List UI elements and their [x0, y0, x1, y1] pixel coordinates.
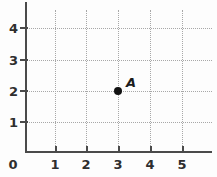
x-axis-tick-1 — [55, 146, 57, 153]
x-axis-tick-5 — [182, 146, 184, 153]
y-axis-tick-2 — [20, 90, 28, 92]
gridline-vertical-x4 — [150, 10, 151, 152]
gridline-horizontal-y4 — [25, 28, 212, 29]
x-axis-tick-4 — [150, 146, 152, 153]
origin-label: 0 — [8, 158, 17, 171]
y-axis-tick-3 — [20, 59, 28, 61]
data-point-a-label: A — [126, 76, 136, 89]
x-axis-tick-3 — [118, 146, 120, 153]
gridline-vertical-x2 — [86, 10, 87, 152]
x-axis-label-4: 4 — [145, 158, 154, 171]
x-axis-tick-2 — [86, 146, 88, 153]
y-axis-tick-1 — [20, 121, 28, 123]
x-axis-label-1: 1 — [50, 158, 59, 171]
y-axis-label-1: 1 — [8, 116, 18, 129]
gridline-vertical-x1 — [55, 10, 56, 152]
gridline-horizontal-y1 — [25, 122, 212, 123]
gridline-horizontal-y3 — [25, 60, 212, 61]
y-axis-tick-4 — [20, 27, 28, 29]
data-point-a — [114, 87, 122, 95]
y-axis-line — [25, 2, 27, 153]
coordinate-plane-chart: 0 1 2 3 4 5 1 2 3 4 A — [0, 0, 217, 177]
x-axis-label-5: 5 — [177, 158, 186, 171]
y-axis-label-2: 2 — [8, 85, 18, 98]
y-axis-label-3: 3 — [8, 54, 18, 67]
gridline-vertical-x3 — [118, 10, 119, 152]
x-axis-label-2: 2 — [81, 158, 90, 171]
y-axis-label-4: 4 — [8, 22, 18, 35]
gridline-vertical-x5 — [182, 10, 183, 152]
x-axis-label-3: 3 — [113, 158, 122, 171]
